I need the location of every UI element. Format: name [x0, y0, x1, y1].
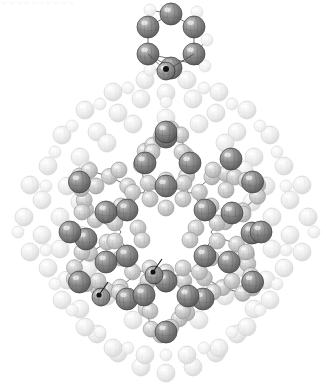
peripheral-hydrogen-atom	[281, 191, 299, 209]
peripheral-hydrogen-atom-small	[122, 342, 134, 354]
macrocycle-core-carbon	[177, 285, 199, 307]
macrocycle-inner-carbon	[125, 184, 141, 200]
peripheral-hydrogen-atom	[275, 259, 293, 277]
peripheral-hydrogen-atom	[136, 346, 154, 364]
peripheral-hydrogen-atom	[76, 318, 94, 336]
macrocycle-inner-carbon	[140, 175, 156, 191]
macrocycle-core-carbon	[218, 251, 240, 273]
macrocycle-inner-carbon	[176, 175, 192, 191]
molecule-rendering	[0, 0, 326, 387]
peripheral-hydrogen-atom-small	[49, 278, 61, 290]
macrocycle-chain-carbon	[111, 162, 127, 178]
peripheral-hydrogen-atom	[184, 90, 202, 108]
link-heteroatom-marker	[163, 66, 169, 72]
peripheral-hydrogen-atom	[104, 339, 122, 357]
macrocycle-chain-carbon	[224, 273, 240, 289]
macrocycle-arm-tip-carbon	[242, 271, 264, 293]
peripheral-hydrogen-atom-small	[40, 180, 52, 192]
peripheral-hydrogen-atom	[21, 176, 39, 194]
macrocycle-core-carbon	[221, 202, 243, 224]
macrocycle-arm-tip-carbon	[68, 171, 90, 193]
peripheral-hydrogen-atom	[132, 90, 150, 108]
peripheral-hydrogen-atom-small	[49, 146, 61, 158]
peripheral-hydrogen-atom-small	[280, 180, 292, 192]
peripheral-hydrogen-atom	[21, 243, 39, 261]
macrocycle-arm-tip-carbon	[68, 271, 90, 293]
peripheral-hydrogen-atom-small	[66, 304, 78, 316]
peripheral-hydrogen-atom	[109, 104, 127, 122]
macrocycle-core-carbon	[95, 251, 117, 273]
peripheral-hydrogen-atom	[124, 115, 142, 133]
macrocycle-core-carbon	[116, 199, 138, 221]
peripheral-hydrogen-atom	[293, 243, 311, 261]
macrocycle-chain-carbon	[175, 260, 191, 276]
peripheral-hydrogen-atom-small	[12, 226, 24, 238]
benzene-hydrogen-atom	[144, 4, 156, 16]
peripheral-hydrogen-atom-small	[254, 120, 266, 132]
macrocycle-arm-tip-carbon	[242, 171, 264, 193]
peripheral-hydrogen-atom	[299, 208, 317, 226]
peripheral-hydrogen-atom-small	[94, 326, 106, 338]
peripheral-hydrogen-atom-small	[198, 342, 210, 354]
peripheral-hydrogen-atom	[190, 115, 208, 133]
peripheral-hydrogen-atom-small	[271, 278, 283, 290]
macrocycle-chain-carbon	[74, 204, 90, 220]
macrocycle-core-carbon	[116, 245, 138, 267]
benzene-carbon-atom	[183, 16, 205, 38]
macrocycle-core-carbon	[95, 201, 117, 223]
peripheral-hydrogen-atom	[157, 364, 175, 382]
macrocycle-chain-carbon	[142, 191, 158, 207]
peripheral-hydrogen-atom-small	[160, 96, 172, 108]
peripheral-hydrogen-atom	[76, 101, 94, 119]
figure-canvas: Molecular structure rendering Space-fill…	[0, 0, 326, 387]
peripheral-hydrogen-atom-small	[226, 98, 238, 110]
peripheral-hydrogen-atom-small	[254, 304, 266, 316]
peripheral-hydrogen-atom-small	[198, 82, 210, 94]
macrocycle-chain-carbon	[218, 182, 234, 198]
peripheral-hydrogen-atom	[15, 208, 33, 226]
macrocycle-chain-carbon	[175, 191, 191, 207]
macrocycle-arm-tip-carbon	[155, 121, 177, 143]
peripheral-hydrogen-atom-small	[122, 82, 134, 94]
macrocycle-chain-carbon	[182, 232, 198, 248]
macrocycle-core-layer	[59, 121, 272, 343]
macrocycle-chain-carbon	[134, 232, 150, 248]
macrocycle-heteroatom	[145, 266, 163, 284]
peripheral-hydrogen-atom	[281, 226, 299, 244]
peripheral-hydrogen-atom	[263, 240, 281, 258]
peripheral-hydrogen-atom	[238, 101, 256, 119]
benzene-hydrogen-atom	[144, 64, 156, 76]
peripheral-hydrogen-atom-small	[40, 244, 52, 256]
peripheral-hydrogen-atom	[98, 134, 116, 152]
macrocycle-core-carbon	[133, 284, 155, 306]
peripheral-hydrogen-atom	[275, 157, 293, 175]
macrocycle-core-carbon	[194, 199, 216, 221]
peripheral-hydrogen-atom-small	[280, 244, 292, 256]
peripheral-hydrogen-atom	[39, 157, 57, 175]
peripheral-hydrogen-atom	[178, 346, 196, 364]
peripheral-hydrogen-atom	[104, 83, 122, 101]
benzene-ring-layer	[137, 3, 213, 80]
peripheral-hydrogen-atom	[210, 339, 228, 357]
macrocycle-core-carbon	[179, 152, 201, 174]
macrocycle-chain-carbon	[205, 162, 221, 178]
benzene-hydrogen-atom	[201, 34, 213, 46]
macrocycle-core-carbon	[220, 148, 242, 170]
peripheral-hydrogen-atom-small	[66, 120, 78, 132]
peripheral-hydrogen-atom	[39, 259, 57, 277]
macrocycle-chain-carbon	[158, 200, 174, 216]
macrocycle-core-carbon	[59, 221, 81, 243]
peripheral-hydrogen-atom	[33, 226, 51, 244]
macrocycle-inner-carbon	[107, 233, 123, 249]
peripheral-hydrogen-atom-small	[226, 326, 238, 338]
peripheral-hydrogen-atom	[207, 104, 225, 122]
peripheral-hydrogen-atom-small	[94, 98, 106, 110]
macrocycle-core-carbon	[250, 221, 272, 243]
macrocycle-chain-carbon	[90, 273, 106, 289]
benzene-carbon-atom	[137, 16, 159, 38]
macrocycle-core-carbon	[194, 245, 216, 267]
peripheral-hydrogen-atom	[293, 176, 311, 194]
peripheral-hydrogen-atom	[33, 191, 51, 209]
macrocycle-inner-carbon	[209, 233, 225, 249]
benzene-carbon-atom	[160, 3, 182, 25]
